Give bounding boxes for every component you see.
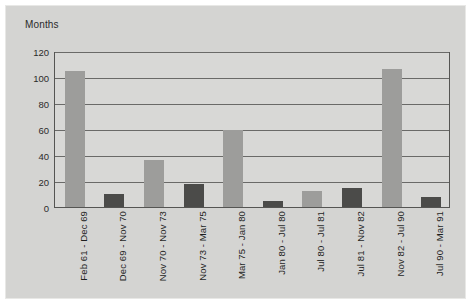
y-tick-60: 60 <box>9 125 49 136</box>
y-tick-80: 80 <box>9 99 49 110</box>
x-tick-label: Nov 73 - Mar 75 <box>197 211 208 281</box>
bar <box>302 191 322 207</box>
x-tick-label: Dec 69 - Nov 70 <box>117 211 128 281</box>
plot-area <box>54 52 450 208</box>
y-tick-40: 40 <box>9 151 49 162</box>
y-axis-tick-labels: 020406080100120 <box>6 52 49 208</box>
y-tick-100: 100 <box>9 73 49 84</box>
gridline-120 <box>55 52 449 53</box>
bar <box>223 130 243 207</box>
bar <box>65 71 85 208</box>
x-tick-label: Mar 75 - Jan 80 <box>236 211 247 279</box>
y-tick-120: 120 <box>9 47 49 58</box>
x-tick-label: Nov 70 - Nov 73 <box>157 211 168 281</box>
y-tick-20: 20 <box>9 177 49 188</box>
x-tick-label: Jul 90 - Mar 91 <box>434 211 445 276</box>
x-tick-label: Nov 82 - Jul 90 <box>395 211 406 276</box>
x-tick-label: Feb 61 - Dec 69 <box>78 211 89 281</box>
bar <box>184 184 204 207</box>
x-tick-label: Jul 80 - Jul 81 <box>315 211 326 272</box>
bar <box>342 188 362 208</box>
bar <box>263 201 283 208</box>
bar <box>421 197 441 207</box>
y-axis-title: Months <box>25 19 59 30</box>
x-axis-tick-labels: Feb 61 - Dec 69Dec 69 - Nov 70Nov 70 - N… <box>54 209 450 301</box>
bar <box>104 194 124 207</box>
bar <box>382 69 402 207</box>
y-tick-0: 0 <box>9 203 49 214</box>
x-tick-label: Jul 81 - Nov 82 <box>355 211 366 276</box>
chart-frame: Months 020406080100120 Feb 61 - Dec 69De… <box>5 5 466 299</box>
bar <box>144 160 164 207</box>
x-tick-label: Jan 80 - Jul 80 <box>276 211 287 275</box>
